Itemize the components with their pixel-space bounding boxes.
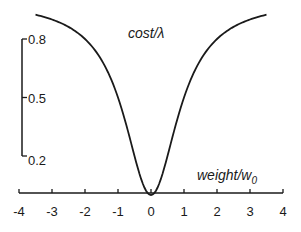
x-tick-label: 3 (246, 204, 253, 219)
y-axis: 0.20.50.8 (22, 32, 46, 168)
x-tick-label: 0 (147, 204, 154, 219)
y-tick-label: 0.8 (28, 32, 46, 47)
x-tick-label: -2 (79, 204, 91, 219)
x-axis-title-main: weight/w (197, 167, 252, 183)
y-axis-title: cost/λ (128, 25, 165, 41)
x-axis-title-subscript: 0 (251, 175, 257, 186)
x-tick-label: -4 (13, 204, 25, 219)
x-tick-label: 4 (279, 204, 286, 219)
y-tick-label: 0.5 (28, 91, 46, 106)
x-axis: -4-3-2-101234 (13, 189, 286, 219)
x-tick-label: -1 (112, 204, 124, 219)
x-tick-label: 2 (213, 204, 220, 219)
x-tick-label: -3 (46, 204, 58, 219)
x-axis-title: weight/w0 (197, 167, 257, 186)
chart-figure: 0.20.50.8 -4-3-2-101234 cost/λ weight/w0 (0, 0, 301, 232)
x-tick-label: 1 (180, 204, 187, 219)
y-tick-label: 0.2 (28, 153, 46, 168)
